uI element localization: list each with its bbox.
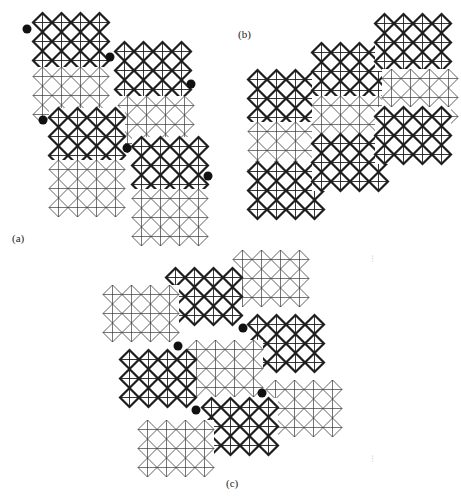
panel-label-b: (b): [238, 28, 251, 40]
panel-a: [23, 13, 213, 246]
pivot-dot: [106, 53, 115, 62]
pivot-dot: [123, 144, 132, 153]
bold-block: [120, 350, 196, 407]
pivot-dot: [239, 324, 248, 333]
panel-b: [248, 14, 458, 219]
light-block: [103, 285, 179, 342]
pivot-dot: [204, 172, 213, 181]
pivot-dot: [174, 342, 183, 351]
light-block: [233, 250, 309, 307]
light-block: [49, 160, 125, 217]
light-block: [187, 340, 263, 397]
pivot-dot: [187, 80, 196, 89]
bold-block: [49, 108, 125, 165]
scan-artifact: ⁝: [371, 453, 374, 464]
pivot-dot: [39, 116, 48, 125]
bold-block: [375, 14, 451, 71]
pivot-dot: [258, 389, 267, 398]
figure: ⁝⁝ (a) (b) (c): [0, 0, 461, 499]
bold-block: [33, 13, 109, 70]
diagram-canvas: ⁝⁝: [0, 0, 461, 499]
light-block: [138, 420, 214, 477]
bold-block: [132, 137, 208, 194]
panel-c: [103, 250, 342, 477]
pivot-dot: [23, 25, 32, 34]
scan-artifact: ⁝: [371, 253, 374, 264]
panel-label-a: (a): [12, 232, 24, 244]
bold-block: [115, 42, 191, 99]
bold-block: [375, 107, 451, 164]
light-block: [132, 189, 208, 246]
panel-label-c: (c): [226, 477, 238, 489]
pivot-dot: [192, 406, 201, 415]
